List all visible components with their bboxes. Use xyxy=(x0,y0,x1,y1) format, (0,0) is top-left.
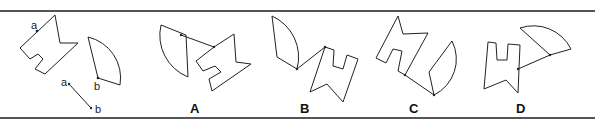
option-c-label: C xyxy=(409,101,419,116)
option-d-figure[interactable]: D xyxy=(484,26,571,116)
option-d-label: D xyxy=(516,101,525,116)
label-a: a xyxy=(31,19,38,31)
given-notched-shape: a xyxy=(20,15,78,74)
option-c-figure[interactable]: C xyxy=(376,16,456,116)
segment-label-a: a xyxy=(61,76,68,88)
given-sector-shape: b xyxy=(88,37,121,92)
option-b-figure[interactable]: B xyxy=(272,16,358,116)
option-a-figure[interactable]: A xyxy=(160,25,251,116)
point-b-marker xyxy=(97,77,100,80)
puzzle-figure: a b a b A B C xyxy=(0,0,595,120)
option-a-label: A xyxy=(190,101,200,116)
label-b: b xyxy=(94,80,100,92)
option-b-label: B xyxy=(300,101,309,116)
segment-label-b: b xyxy=(95,103,101,115)
